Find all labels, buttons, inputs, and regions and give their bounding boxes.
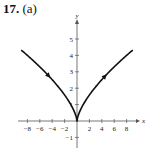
y-tick-label: 2 [70, 85, 74, 93]
y-axis-label: y [75, 12, 80, 20]
y-tick-label: −1 [66, 134, 74, 142]
x-tick-label: 4 [100, 125, 104, 133]
x-axis-arrow-icon [136, 119, 140, 123]
y-tick-label: 3 [70, 68, 74, 76]
x-axis-label: x [141, 117, 146, 125]
x-tick-label: −8 [24, 125, 32, 133]
cusp-curve-chart: xy−8−6−4−22468−112345 [0, 0, 147, 155]
x-tick-label: −6 [36, 125, 44, 133]
y-tick-label: 4 [70, 52, 74, 60]
x-tick-label: 6 [112, 125, 116, 133]
x-tick-label: 2 [88, 125, 92, 133]
x-tick-label: −2 [61, 125, 69, 133]
x-tick-label: −4 [48, 125, 56, 133]
y-tick-label: 5 [70, 36, 74, 44]
x-tick-label: 8 [125, 125, 129, 133]
